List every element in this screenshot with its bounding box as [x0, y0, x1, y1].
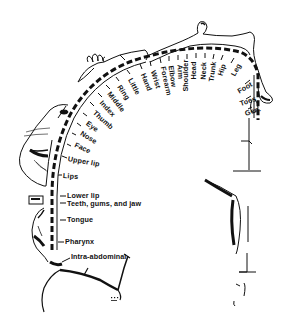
scale-mark [111, 297, 118, 301]
homunculus-diagram: Gen. Toes Foot Leg Hip Trunk Neck Head S… [0, 0, 287, 325]
label-teeth-gums-jaw: Teeth, gums, and jaw [67, 200, 141, 207]
label-neck: Neck [199, 62, 207, 80]
label-pharynx: Pharynx [65, 238, 94, 245]
label-head: Head [190, 62, 197, 80]
tongue-figure [32, 208, 48, 262]
homunculus-illustration [0, 0, 287, 325]
label-lips: Lips [63, 172, 79, 180]
brain-base [42, 254, 130, 312]
teeth-figure [29, 196, 43, 204]
hand-figure [78, 50, 148, 82]
label-tongue: Tongue [67, 216, 93, 223]
label-arm: Arm [176, 64, 184, 79]
label-intra-abdominal: Intra-abdominal [71, 253, 126, 260]
right-fragments [205, 118, 261, 306]
face-figure [19, 105, 68, 186]
